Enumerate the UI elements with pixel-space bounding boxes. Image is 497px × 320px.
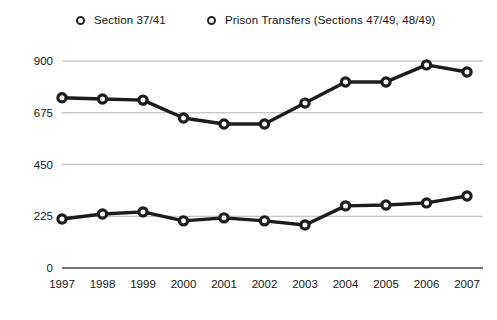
data-point-marker bbox=[260, 120, 268, 128]
x-tick-label: 1998 bbox=[80, 278, 126, 290]
x-tick-label: 2000 bbox=[161, 278, 207, 290]
x-tick-label: 1997 bbox=[39, 278, 85, 290]
x-tick-label: 2006 bbox=[404, 278, 450, 290]
y-tick-label: 675 bbox=[13, 107, 53, 119]
series-section-37-41 bbox=[58, 192, 471, 229]
x-tick-label: 2005 bbox=[363, 278, 409, 290]
data-point-marker bbox=[463, 192, 471, 200]
x-tick-label: 2003 bbox=[282, 278, 328, 290]
data-point-marker bbox=[58, 94, 66, 102]
data-point-marker bbox=[220, 214, 228, 222]
y-tick-label: 0 bbox=[13, 262, 53, 274]
line-chart: Section 37/41 Prison Transfers (Sections… bbox=[0, 0, 497, 320]
data-point-marker bbox=[179, 114, 187, 122]
data-point-marker bbox=[341, 78, 349, 86]
x-tick-label: 2002 bbox=[242, 278, 288, 290]
data-point-marker bbox=[179, 217, 187, 225]
data-point-marker bbox=[139, 96, 147, 104]
data-point-marker bbox=[260, 217, 268, 225]
data-point-marker bbox=[422, 199, 430, 207]
plot-canvas bbox=[0, 0, 497, 320]
data-point-marker bbox=[98, 95, 106, 103]
series-prison-transfers bbox=[58, 61, 471, 128]
data-point-marker bbox=[382, 78, 390, 86]
x-tick-label: 2007 bbox=[444, 278, 490, 290]
plot-area: 0225450675900 19971998199920002001200220… bbox=[0, 0, 497, 320]
data-point-marker bbox=[58, 215, 66, 223]
data-point-marker bbox=[301, 99, 309, 107]
y-tick-label: 450 bbox=[13, 159, 53, 171]
data-point-marker bbox=[382, 201, 390, 209]
data-point-marker bbox=[341, 202, 349, 210]
data-point-marker bbox=[98, 210, 106, 218]
series-line bbox=[62, 65, 467, 124]
data-point-marker bbox=[139, 208, 147, 216]
y-tick-label: 225 bbox=[13, 210, 53, 222]
x-tick-label: 2001 bbox=[201, 278, 247, 290]
data-point-marker bbox=[301, 221, 309, 229]
y-tick-label: 900 bbox=[13, 55, 53, 67]
data-point-marker bbox=[463, 68, 471, 76]
x-tick-label: 2004 bbox=[323, 278, 369, 290]
data-point-marker bbox=[422, 61, 430, 69]
data-point-marker bbox=[220, 120, 228, 128]
x-tick-label: 1999 bbox=[120, 278, 166, 290]
